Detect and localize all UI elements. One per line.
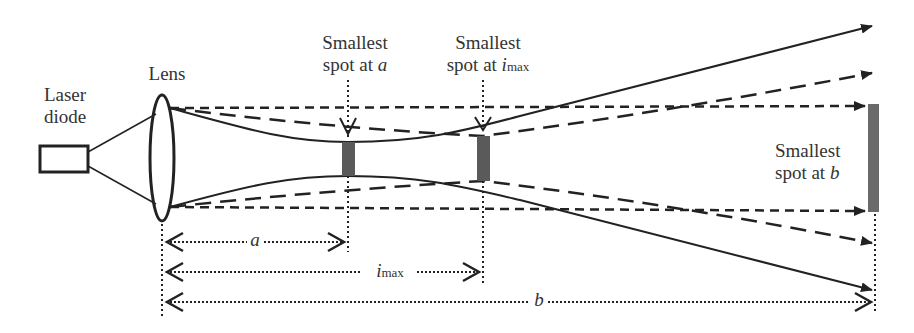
spot-b-label-line1: Smallest: [775, 140, 865, 162]
beam-imax-bottom: [170, 181, 872, 243]
beam-focus-diagram: Laser diode Lens Smallest spot at a Smal…: [0, 0, 914, 333]
dim-b-var: b: [534, 289, 544, 310]
spot-a-label: Smallest spot at a: [300, 32, 410, 76]
beam-b-bottom: [170, 207, 865, 211]
spot-a: [342, 142, 355, 176]
lens-label-text: Lens: [149, 63, 186, 84]
lens: [150, 95, 174, 221]
spot-imax: [477, 136, 490, 181]
spot-a-label-line1: Smallest: [300, 32, 410, 54]
spot-a-var: a: [378, 54, 388, 75]
spot-a-prefix: spot at: [323, 54, 378, 75]
dim-imax-label: imax: [362, 260, 418, 284]
dim-a-var: a: [250, 229, 260, 250]
spot-b-prefix: spot at: [775, 162, 830, 183]
dim-imax-sub: max: [381, 265, 403, 280]
spot-b-label-line2: spot at b: [775, 162, 865, 184]
dim-a-label: a: [245, 229, 265, 251]
spot-imax-label-line1: Smallest: [428, 32, 548, 54]
laser-diode-label-line1: Laser: [30, 84, 100, 106]
spot-b: [868, 104, 879, 212]
spot-a-label-line2: spot at a: [300, 54, 410, 76]
spot-b-label: Smallest spot at b: [775, 140, 865, 184]
lens-label: Lens: [137, 63, 197, 85]
beam-imax-top: [170, 73, 872, 136]
laser-diode: [40, 146, 88, 172]
spot-imax-prefix: spot at: [447, 54, 502, 75]
beam-b-top: [170, 106, 865, 108]
spot-imax-label-line2: spot at imax: [428, 54, 548, 78]
spot-imax-label: Smallest spot at imax: [428, 32, 548, 78]
diode-ray-bottom: [88, 166, 156, 204]
laser-diode-label: Laser diode: [30, 84, 100, 128]
spot-b-var: b: [830, 162, 840, 183]
spot-imax-sub: max: [507, 59, 529, 74]
laser-diode-label-line2: diode: [30, 106, 100, 128]
dim-b-label: b: [530, 289, 548, 311]
